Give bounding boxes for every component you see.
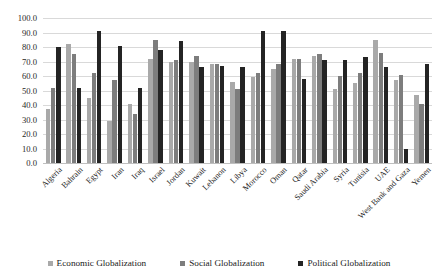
bar bbox=[189, 62, 193, 164]
bar-group bbox=[43, 18, 63, 163]
y-tick-label: 20.0 bbox=[22, 130, 37, 139]
chart-legend: Economic GlobalizationSocial Globalizati… bbox=[0, 254, 438, 274]
legend-label: Social Globalization bbox=[189, 259, 264, 268]
y-tick-label: 80.0 bbox=[22, 43, 37, 52]
bar bbox=[363, 57, 367, 163]
bar bbox=[220, 66, 224, 163]
bar bbox=[179, 41, 183, 163]
legend-item[interactable]: Political Globalization bbox=[298, 259, 390, 268]
x-tick-label: Oman bbox=[269, 166, 289, 186]
bar-group bbox=[411, 18, 431, 163]
bar bbox=[133, 114, 137, 163]
bar bbox=[112, 80, 116, 163]
bar bbox=[210, 64, 214, 163]
bar bbox=[261, 31, 265, 163]
bar bbox=[240, 67, 244, 163]
plot-area bbox=[43, 18, 432, 163]
bar bbox=[384, 67, 388, 163]
bar-group bbox=[145, 18, 165, 163]
bar bbox=[97, 31, 101, 163]
bar-group bbox=[227, 18, 247, 163]
legend-swatch-icon bbox=[180, 261, 185, 266]
globalization-bar-chart: 0.010.020.030.040.050.060.070.080.090.01… bbox=[0, 0, 438, 278]
bar bbox=[419, 104, 423, 163]
bar bbox=[322, 60, 326, 163]
legend-item[interactable]: Economic Globalization bbox=[48, 259, 147, 268]
x-tick-label: Iraq bbox=[131, 166, 146, 181]
bar bbox=[153, 40, 157, 163]
bar bbox=[199, 67, 203, 163]
bar-group bbox=[371, 18, 391, 163]
x-axis: AlgeriaBahrainEgyptIranIraqIsraelJordanK… bbox=[43, 164, 432, 248]
legend-swatch-icon bbox=[48, 261, 53, 266]
bar bbox=[414, 95, 418, 163]
bar bbox=[235, 89, 239, 163]
legend-label: Political Globalization bbox=[307, 259, 390, 268]
bar-group bbox=[125, 18, 145, 163]
bar-group bbox=[84, 18, 104, 163]
y-tick-label: 0.0 bbox=[26, 159, 37, 168]
bar-group bbox=[186, 18, 206, 163]
legend-item[interactable]: Social Globalization bbox=[180, 259, 264, 268]
bar bbox=[128, 104, 132, 163]
bar-group bbox=[309, 18, 329, 163]
x-tick-label: Tunisia bbox=[348, 166, 371, 189]
bar-group bbox=[166, 18, 186, 163]
y-tick-label: 70.0 bbox=[22, 57, 37, 66]
x-tick-label: Bahrain bbox=[60, 166, 84, 190]
bar bbox=[56, 47, 60, 163]
legend-swatch-icon bbox=[298, 261, 303, 266]
bar bbox=[317, 54, 321, 163]
x-tick-label: Israel bbox=[148, 166, 167, 185]
bar bbox=[230, 82, 234, 163]
bar-groups bbox=[43, 18, 432, 163]
y-tick-label: 100.0 bbox=[18, 14, 37, 23]
bar bbox=[353, 83, 357, 163]
bar bbox=[404, 149, 408, 164]
bar bbox=[271, 69, 275, 163]
bar bbox=[358, 73, 362, 163]
y-tick-label: 10.0 bbox=[22, 144, 37, 153]
y-tick-label: 60.0 bbox=[22, 72, 37, 81]
y-tick-label: 90.0 bbox=[22, 28, 37, 37]
x-tick-label: Egypt bbox=[85, 166, 105, 186]
x-tick-label: Yemen bbox=[410, 166, 432, 188]
bar-group bbox=[207, 18, 227, 163]
bar bbox=[276, 64, 280, 163]
bar bbox=[343, 60, 347, 163]
bar bbox=[256, 73, 260, 163]
bar bbox=[333, 89, 337, 163]
bar bbox=[66, 44, 70, 163]
bar bbox=[158, 50, 162, 163]
bar bbox=[87, 98, 91, 163]
bar bbox=[338, 76, 342, 163]
bar bbox=[92, 73, 96, 163]
y-tick-label: 30.0 bbox=[22, 115, 37, 124]
bar bbox=[169, 62, 173, 164]
bar bbox=[251, 77, 255, 163]
bar bbox=[174, 60, 178, 163]
legend-label: Economic Globalization bbox=[57, 259, 147, 268]
bar-group bbox=[268, 18, 288, 163]
bar bbox=[215, 64, 219, 163]
bar bbox=[394, 80, 398, 163]
x-tick-label: Jordan bbox=[165, 166, 187, 188]
bar bbox=[194, 56, 198, 163]
x-tick-label: Algeria bbox=[41, 166, 64, 189]
bar bbox=[51, 88, 55, 163]
bar-group bbox=[289, 18, 309, 163]
bar bbox=[312, 56, 316, 163]
bar bbox=[399, 75, 403, 163]
bar-group bbox=[248, 18, 268, 163]
bar bbox=[297, 59, 301, 163]
y-tick-label: 40.0 bbox=[22, 101, 37, 110]
bar bbox=[138, 88, 142, 163]
x-tick-label: Iran bbox=[110, 166, 125, 181]
bar bbox=[379, 53, 383, 163]
bar bbox=[373, 40, 377, 163]
y-tick-label: 50.0 bbox=[22, 86, 37, 95]
bar bbox=[77, 88, 81, 163]
bar-group bbox=[63, 18, 83, 163]
bar bbox=[292, 59, 296, 163]
bar-group bbox=[350, 18, 370, 163]
